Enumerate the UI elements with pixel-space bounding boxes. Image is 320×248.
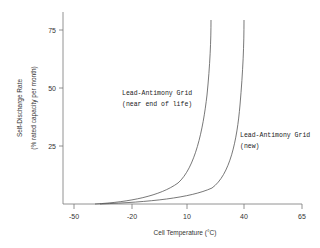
y-tick-label: 25 xyxy=(48,143,56,150)
x-tick-label: 40 xyxy=(240,213,248,220)
curve-near-end-of-life xyxy=(95,20,211,204)
annotation-near-end-line2: (near end of life) xyxy=(122,101,192,108)
annotation-near-end-line1: Lead-Antimony Grid xyxy=(122,90,192,97)
x-axis-title: Cell Temperature (°C) xyxy=(154,229,217,237)
x-tick-label: 65 xyxy=(298,213,306,220)
y-axis-title: Self-Discharge Rate xyxy=(16,79,24,138)
y-ticks: 75 50 25 xyxy=(48,27,63,150)
x-ticks: -50 -20 10 40 65 xyxy=(69,204,306,220)
y-tick-label: 75 xyxy=(48,27,56,34)
annotation-new-line1: Lead-Antimony Grid xyxy=(240,132,310,139)
x-tick-label: 10 xyxy=(183,213,191,220)
annotation-new-line2: (new) xyxy=(240,143,260,150)
curve-new xyxy=(100,20,244,204)
y-axis-subtitle: (% rated capacity per month) xyxy=(30,66,38,149)
x-tick-label: -20 xyxy=(127,213,137,220)
y-tick-label: 50 xyxy=(48,85,56,92)
x-tick-label: -50 xyxy=(69,213,79,220)
self-discharge-chart: 75 50 25 -50 -20 10 40 65 Cell Temperatu… xyxy=(0,0,320,248)
